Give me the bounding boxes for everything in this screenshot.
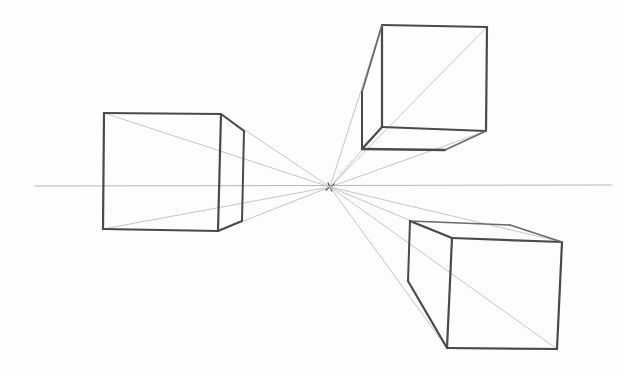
front-face-edge: [447, 348, 557, 349]
front-face-edge: [452, 238, 562, 242]
convergence-line: [104, 113, 330, 187]
back-edge: [410, 221, 510, 225]
depth-edge: [218, 221, 242, 231]
front-face-edge: [447, 238, 452, 348]
convergence-line: [330, 187, 562, 242]
left-cube: [103, 113, 244, 231]
cubes: [103, 25, 562, 349]
perspective-sketch: One-point perspective pencil sketch: [0, 0, 624, 375]
front-face-edge: [218, 114, 221, 231]
depth-edge: [362, 25, 382, 92]
front-face-edge: [557, 242, 562, 349]
convergence-line: [330, 187, 557, 349]
convergence-line: [103, 187, 330, 229]
bottom-right-cube: [408, 221, 562, 349]
sketch-drawing: [0, 0, 624, 375]
front-face-edge: [382, 127, 486, 131]
back-edge: [242, 131, 244, 221]
front-face-edge: [103, 113, 104, 229]
depth-edge: [362, 127, 382, 149]
convergence-line: [330, 27, 487, 187]
depth-edge: [221, 114, 244, 131]
back-edge: [408, 221, 410, 281]
perspective-guides: [35, 25, 612, 349]
top-right-cube: [362, 25, 487, 150]
front-face-edge: [486, 27, 487, 131]
front-face-edge: [382, 25, 487, 27]
front-face-edge: [103, 229, 218, 231]
front-face-edge: [104, 113, 221, 114]
back-edge: [362, 149, 445, 150]
depth-edge: [408, 281, 447, 348]
depth-edge: [410, 221, 452, 238]
depth-edge: [445, 131, 486, 150]
convergence-line: [330, 131, 486, 187]
